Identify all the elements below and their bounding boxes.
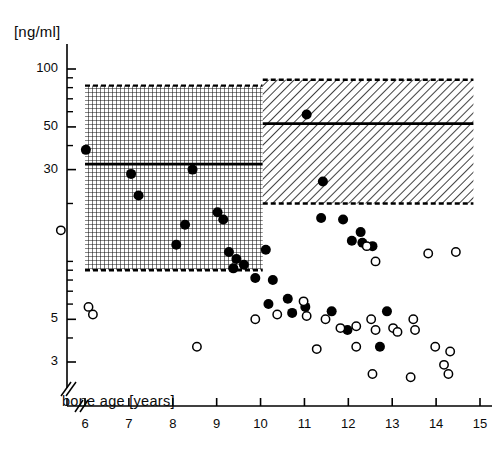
data-point-filled [126, 169, 136, 179]
x-tick-label: 11 [284, 416, 324, 431]
data-point-open [452, 248, 460, 256]
data-point-open [193, 343, 201, 351]
x-tick-label: 13 [372, 416, 412, 431]
data-point-filled [302, 110, 312, 120]
data-point-filled [250, 273, 260, 283]
data-point-open [409, 315, 417, 323]
data-point-filled [356, 227, 366, 237]
data-point-open [321, 315, 329, 323]
y-axis-unit-label: [ng/ml] [14, 23, 60, 40]
data-point-filled [239, 260, 249, 270]
data-point-open [89, 310, 97, 318]
scatter-plot-canvas [0, 0, 492, 459]
data-point-open [444, 370, 452, 378]
data-point-open [302, 312, 310, 320]
x-tick-label: 10 [241, 416, 281, 431]
data-point-open [251, 315, 259, 323]
x-tick-label: 9 [197, 416, 237, 431]
data-point-filled [375, 342, 385, 352]
data-point-open [446, 347, 454, 355]
data-point-open [371, 257, 379, 265]
data-point-filled [171, 240, 181, 250]
pubertal-reference-band [263, 80, 474, 204]
data-point-filled [268, 275, 278, 285]
x-axis-title: bone age [years] [62, 393, 175, 409]
x-tick-label: 12 [328, 416, 368, 431]
data-point-open [368, 370, 376, 378]
data-point-filled [316, 213, 326, 223]
data-point-filled [338, 215, 348, 225]
data-point-filled [263, 299, 273, 309]
data-point-filled [188, 165, 198, 175]
data-point-open [352, 322, 360, 330]
data-point-open [411, 326, 419, 334]
data-point-open [406, 373, 414, 381]
data-point-open [336, 324, 344, 332]
x-tick-label: 8 [153, 416, 193, 431]
data-point-open [352, 343, 360, 351]
data-point-filled [218, 215, 228, 225]
chart-figure: [ng/ml] bone age [years] 100503035 67891… [0, 0, 492, 459]
data-point-filled [180, 220, 190, 230]
y-tick-label: 50 [12, 118, 58, 133]
data-point-filled [81, 145, 91, 155]
data-point-filled [347, 236, 357, 246]
data-point-open [367, 315, 375, 323]
y-tick-label: 30 [12, 161, 58, 176]
data-point-filled [228, 263, 238, 273]
reference-bands-layer [85, 80, 473, 271]
data-point-open [431, 343, 439, 351]
data-point-filled [134, 191, 144, 201]
data-point-filled [382, 306, 392, 316]
data-point-filled [283, 294, 293, 304]
x-tick-label: 14 [416, 416, 456, 431]
data-point-open [393, 328, 401, 336]
data-point-open [371, 326, 379, 334]
x-tick-label: 6 [65, 416, 105, 431]
x-tick-label: 15 [460, 416, 492, 431]
data-point-open [299, 297, 307, 305]
data-point-open [57, 226, 65, 234]
data-point-filled [327, 306, 337, 316]
data-point-filled [318, 177, 328, 187]
data-point-open [363, 242, 371, 250]
data-point-open [440, 361, 448, 369]
data-point-open [273, 310, 281, 318]
data-point-open [424, 249, 432, 257]
y-tick-label: 5 [12, 310, 58, 325]
data-point-filled [287, 308, 297, 318]
data-point-filled [224, 247, 234, 257]
y-tick-label: 100 [12, 60, 58, 75]
x-tick-label: 7 [109, 416, 149, 431]
y-tick-label: 3 [12, 353, 58, 368]
data-point-open [313, 345, 321, 353]
data-point-filled [261, 245, 271, 255]
